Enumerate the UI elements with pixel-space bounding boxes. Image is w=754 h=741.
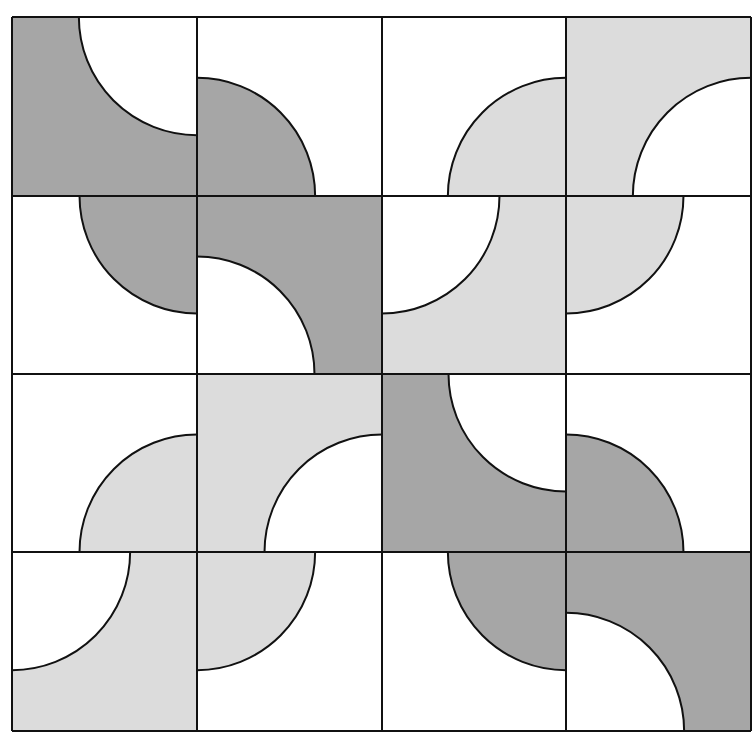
tile-r2-c4: [566, 196, 751, 374]
tile-r4-c2: [197, 552, 382, 731]
tile-r3-c4: [566, 374, 751, 552]
tile-r3-c2: [197, 374, 382, 552]
tile-r1-c4: [566, 17, 751, 196]
tile-r3-c1: [12, 374, 197, 552]
tile-r1-c3: [382, 17, 566, 196]
tile-r1-c1: [12, 17, 197, 196]
tile-r2-c3: [382, 196, 566, 374]
tile-r4-c3: [382, 552, 566, 731]
tile-r2-c2: [197, 196, 382, 374]
tile-r2-c1: [12, 196, 197, 374]
tile-r4-c4: [566, 552, 751, 731]
tile-r4-c1: [12, 552, 197, 731]
tile-r3-c3: [382, 374, 566, 552]
tile-grid: [0, 0, 754, 741]
tile-pattern-figure: [0, 0, 754, 741]
tile-r1-c2: [197, 17, 382, 196]
